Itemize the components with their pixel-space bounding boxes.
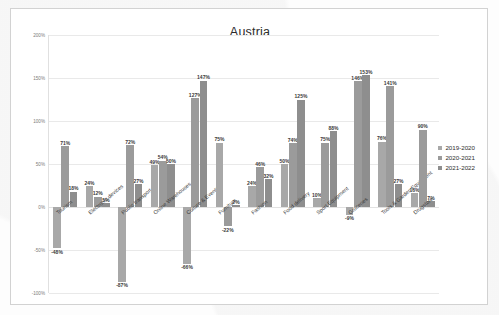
- bar-value-label: 18%: [68, 185, 78, 191]
- bar-group: 24%12%5%Electronic devices: [82, 35, 115, 293]
- bar-value-label: 125%: [295, 93, 308, 99]
- y-axis-tick-label: 100%: [33, 119, 45, 124]
- y-axis-tick-label: 0%: [38, 205, 45, 210]
- bar-value-label: 90%: [418, 123, 428, 129]
- bar-group: 49%54%50%Online Warehouses: [147, 35, 180, 293]
- bar-group: 50%74%125%Food delivery: [277, 35, 310, 293]
- bar: [216, 143, 224, 208]
- bar-group: 75%-22%2%Furniture: [212, 35, 245, 293]
- y-axis-tick-label: 150%: [33, 76, 45, 81]
- legend-item-label: 2020-2021: [445, 153, 475, 163]
- bar-value-label: 32%: [263, 173, 273, 179]
- bar-value-label: 88%: [328, 125, 338, 131]
- bar: [126, 145, 134, 207]
- plot-area: 200%150%100%50%0%-50%-100% -48%71%18%Tou…: [49, 35, 439, 293]
- bar-value-label: 153%: [360, 69, 373, 75]
- bar-group: 16%90%7%Drugstore: [407, 35, 440, 293]
- bar-value-label: 46%: [255, 161, 265, 167]
- bar-group: -87%72%27%Public transport: [114, 35, 147, 293]
- bar-value-label: -22%: [222, 227, 234, 233]
- bar-value-label: -9%: [345, 215, 354, 221]
- bar-value-label: 71%: [60, 140, 70, 146]
- legend-item-label: 2021-2022: [445, 163, 475, 173]
- bar-group: 10%75%88%Sport Equipment: [309, 35, 342, 293]
- gridline: [49, 293, 439, 294]
- bar-group: -48%71%18%Tourism: [49, 35, 82, 293]
- bar: [378, 142, 386, 207]
- bar-groups: -48%71%18%Tourism24%12%5%Electronic devi…: [49, 35, 439, 293]
- bar-value-label: -48%: [51, 249, 63, 255]
- bar: [118, 207, 126, 282]
- bar-value-label: -87%: [116, 282, 128, 288]
- y-axis-tick-label: 50%: [36, 162, 45, 167]
- bar-value-label: 27%: [133, 178, 143, 184]
- y-axis-tick-label: 200%: [33, 33, 45, 38]
- bar-value-label: 141%: [384, 80, 397, 86]
- bar: [281, 164, 289, 207]
- bar-value-label: 27%: [393, 178, 403, 184]
- y-axis-tick-label: -100%: [32, 291, 45, 296]
- bar: [61, 146, 69, 207]
- bar: [86, 186, 94, 207]
- bar: [354, 81, 362, 207]
- legend-item-label: 2019-2020: [445, 143, 475, 153]
- y-axis-tick-label: -50%: [34, 248, 45, 253]
- bar: [321, 143, 329, 208]
- bar: [151, 165, 159, 207]
- bar: [191, 98, 199, 207]
- bar: [248, 186, 256, 207]
- legend-item[interactable]: 2019-2020: [438, 143, 475, 153]
- bar-group: -9%146%153%Groceries: [342, 35, 375, 293]
- chart-container: Austria 200%150%100%50%0%-50%-100% -48%7…: [10, 8, 488, 305]
- bar-value-label: 24%: [85, 180, 95, 186]
- legend-swatch-icon: [438, 156, 442, 160]
- legend-item[interactable]: 2020-2021: [438, 153, 475, 163]
- bar-value-label: 12%: [93, 190, 103, 196]
- bar: [386, 86, 394, 207]
- bar-group: -66%127%147%Culture & Events: [179, 35, 212, 293]
- bar: [200, 81, 208, 207]
- bar: [419, 130, 427, 207]
- legend-swatch-icon: [438, 146, 442, 150]
- chart-legend: 2019-20202020-20212021-2022: [438, 143, 475, 173]
- bar-value-label: 147%: [197, 74, 210, 80]
- bar-value-label: 50%: [166, 158, 176, 164]
- legend-swatch-icon: [438, 166, 442, 170]
- screenshot-page: Austria 200%150%100%50%0%-50%-100% -48%7…: [0, 0, 499, 315]
- bar-value-label: -66%: [181, 264, 193, 270]
- bar: [289, 143, 297, 207]
- bar: [183, 207, 191, 264]
- bar: [362, 75, 370, 207]
- legend-item[interactable]: 2021-2022: [438, 163, 475, 173]
- bar: [297, 100, 305, 208]
- bar: [232, 205, 240, 207]
- bar-group: 76%141%27%Tools & Garden Equipment: [374, 35, 407, 293]
- bar-group: 24%46%32%Fashion: [244, 35, 277, 293]
- bar-value-label: 75%: [215, 136, 225, 142]
- bar-value-label: 72%: [125, 139, 135, 145]
